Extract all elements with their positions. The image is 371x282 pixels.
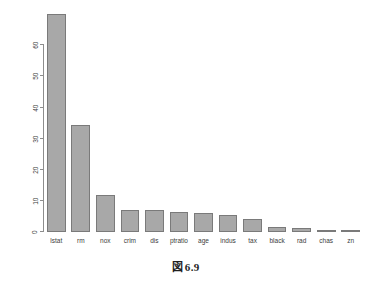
bar-slot (121, 8, 140, 232)
x-axis-tick-labels: lstatrmnoxcrimdisptratioageindustaxblack… (44, 236, 363, 248)
bar-rad (292, 228, 311, 232)
bar-slot (96, 8, 115, 232)
caption-symbol: 図 (172, 261, 183, 273)
bar-chart-plot-area: 0102030405060 (38, 8, 363, 232)
figure-caption: 図6.9 (0, 258, 371, 274)
bar-slot (47, 8, 66, 232)
caption-number: 6.9 (185, 261, 200, 273)
bar-slot (145, 8, 164, 232)
bar-black (268, 227, 287, 232)
bar-tax (243, 219, 262, 232)
bar-slot (292, 8, 311, 232)
bar-indus (219, 215, 238, 232)
bar-lstat (47, 14, 66, 232)
y-axis-tick-label: 20 (33, 166, 40, 173)
bar-age (194, 213, 213, 232)
bar-crim (121, 210, 140, 232)
y-axis-tick-label: 10 (33, 198, 40, 205)
bar-slot (268, 8, 287, 232)
bar-nox (96, 195, 115, 232)
bar-dis (145, 210, 164, 232)
y-axis-tick-label: 60 (33, 42, 40, 49)
y-axis-tick-label: 40 (33, 104, 40, 111)
bar-slot (170, 8, 189, 232)
bar-zn (341, 230, 360, 232)
y-axis-tick-label: 30 (33, 135, 40, 142)
bar-slot (243, 8, 262, 232)
bar-chas (317, 230, 336, 232)
bar-slot (341, 8, 360, 232)
y-axis-tick-label: 50 (33, 73, 40, 80)
bar-slot (71, 8, 90, 232)
y-axis-tick-label: 0 (33, 230, 40, 234)
bar-slot (219, 8, 238, 232)
bar-rm (71, 125, 90, 232)
bar-series (44, 8, 363, 232)
bar-slot (317, 8, 336, 232)
figure-container: 0102030405060 lstatrmnoxcrimdisptratioag… (0, 0, 371, 282)
x-tick-label-zn: zn (330, 236, 371, 245)
bar-ptratio (170, 212, 189, 232)
bar-slot (194, 8, 213, 232)
